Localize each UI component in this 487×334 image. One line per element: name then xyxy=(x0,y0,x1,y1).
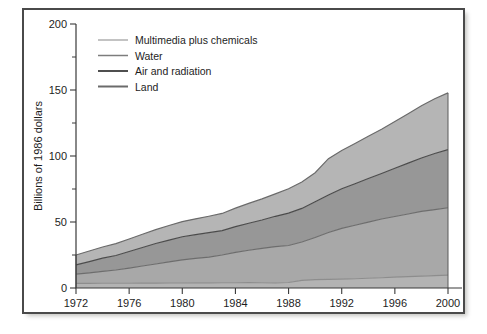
chart-area: 0501001502001972197619801984198819921996… xyxy=(24,10,467,316)
x-ticklabel-1980: 1980 xyxy=(170,297,194,309)
legend: Multimedia plus chemicalsWaterAir and ra… xyxy=(98,34,258,93)
y-axis-title: Billions of 1986 dollars xyxy=(32,100,44,211)
stacked-area-chart: 0501001502001972197619801984198819921996… xyxy=(24,10,467,316)
y-ticklabel-0: 0 xyxy=(61,282,67,294)
x-ticklabel-1996: 1996 xyxy=(383,297,407,309)
legend-label-3: Land xyxy=(135,81,159,93)
x-ticklabel-1984: 1984 xyxy=(223,297,247,309)
x-ticklabel-1992: 1992 xyxy=(329,297,353,309)
chart-plate: 0501001502001972197619801984198819921996… xyxy=(22,8,465,314)
figure-container: 0501001502001972197619801984198819921996… xyxy=(0,0,487,334)
x-ticklabel-1988: 1988 xyxy=(276,297,300,309)
y-ticklabel-150: 150 xyxy=(49,84,67,96)
y-ticklabel-100: 100 xyxy=(49,150,67,162)
legend-label-2: Air and radiation xyxy=(135,65,212,77)
legend-label-1: Water xyxy=(135,50,163,62)
x-ticklabel-2000: 2000 xyxy=(436,297,460,309)
legend-label-0: Multimedia plus chemicals xyxy=(135,34,258,46)
x-ticklabel-1972: 1972 xyxy=(64,297,88,309)
y-ticklabel-50: 50 xyxy=(55,216,67,228)
x-ticklabel-1976: 1976 xyxy=(117,297,141,309)
y-ticklabel-200: 200 xyxy=(49,18,67,30)
